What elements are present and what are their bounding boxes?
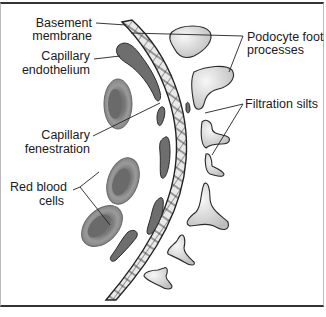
label-filtration-slits: Filtration silts <box>245 97 318 111</box>
red-blood-cell <box>101 153 146 208</box>
label-basement-membrane-line2: membrane <box>32 29 92 43</box>
red-blood-cell <box>104 79 132 129</box>
label-red-blood-cells-line1: Red blood <box>10 180 67 194</box>
label-podocyte-foot-processes-line1: Podocyte foot <box>247 30 324 44</box>
label-capillary-endothelium-line1: Capillary <box>41 49 90 63</box>
label-podocyte-foot-processes-line2: processes <box>247 43 304 57</box>
label-red-blood-cells-line2: cells <box>39 194 64 208</box>
label-capillary-fenestration-line2: fenestration <box>25 142 90 156</box>
label-basement-membrane-line1: Basement <box>36 16 93 30</box>
labels: Basement membrane Capillary endothelium … <box>10 16 324 208</box>
label-capillary-fenestration-line1: Capillary <box>41 128 90 142</box>
glomerular-barrier-diagram: Basement membrane Capillary endothelium … <box>0 0 326 317</box>
red-blood-cells <box>74 79 146 254</box>
label-capillary-endothelium-line2: endothelium <box>22 63 90 77</box>
